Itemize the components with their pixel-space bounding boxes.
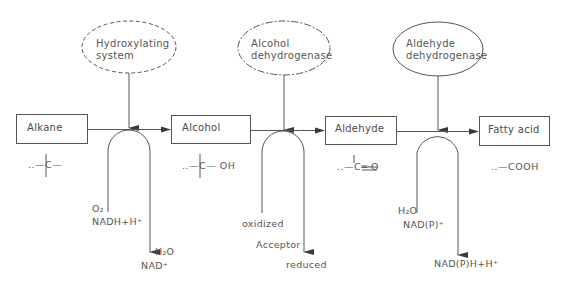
cofactor-oxidized: oxidized <box>242 218 284 229</box>
cofactor-reduced: reduced <box>286 259 327 270</box>
compound-label-alcohol: Alcohol <box>182 122 221 133</box>
cofactor-acceptor: Acceptor <box>256 239 301 250</box>
compound-label-fatty-acid: Fatty acid <box>488 124 540 135</box>
cofactor-nadp-plus: NAD(P)⁺ <box>403 219 444 230</box>
compound-label-aldehyde: Aldehyde <box>335 123 384 134</box>
formula-aldehyde: ..—C═ O <box>337 161 379 172</box>
cofactor-o2: O₂ <box>92 203 104 214</box>
cofactor-h2o-out: H₂O <box>155 246 174 257</box>
enzyme-label-line1: Aldehyde <box>406 38 487 50</box>
cofactor-arc-step2 <box>262 131 304 252</box>
enzyme-hydroxylating-label: Hydroxylating system <box>96 38 170 62</box>
enzyme-label-line2: dehydrogenase <box>406 50 487 62</box>
cofactor-arc-step1 <box>108 130 150 252</box>
cofactor-nad-plus: NAD⁺ <box>141 260 168 271</box>
formula-alkane: ..—C— <box>28 159 62 170</box>
enzyme-label-line1: Alcohol <box>251 38 332 50</box>
cofactor-nadph-h: NAD(P)H+H⁺ <box>434 258 498 269</box>
enzyme-label-line2: system <box>96 50 170 62</box>
cofactor-nadh-h: NADH+H⁺ <box>92 216 142 227</box>
cofactor-arc-step3 <box>417 137 458 255</box>
cofactor-h2o-in: H₂O <box>398 205 417 216</box>
enzyme-label-line1: Hydroxylating <box>96 38 170 50</box>
compound-label-alkane: Alkane <box>27 122 63 133</box>
enzyme-label-line2: dehydrogenase <box>251 50 332 62</box>
enzyme-alcohol-dehydrogenase-label: Alcohol dehydrogenase <box>251 38 332 62</box>
enzyme-aldehyde-dehydrogenase-label: Aldehyde dehydrogenase <box>406 38 487 62</box>
formula-fatty-acid: ..—COOH <box>491 161 539 172</box>
formula-alcohol: ..—C— OH <box>182 160 235 171</box>
